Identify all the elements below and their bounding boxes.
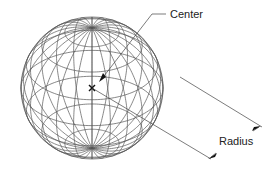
- center-label: Center: [170, 9, 203, 20]
- radius-arrowhead-icon: [252, 126, 261, 131]
- radius-label: Radius: [219, 136, 253, 147]
- radius-arrowhead-icon: [208, 153, 217, 159]
- radius-extension-line-outer: [180, 77, 262, 127]
